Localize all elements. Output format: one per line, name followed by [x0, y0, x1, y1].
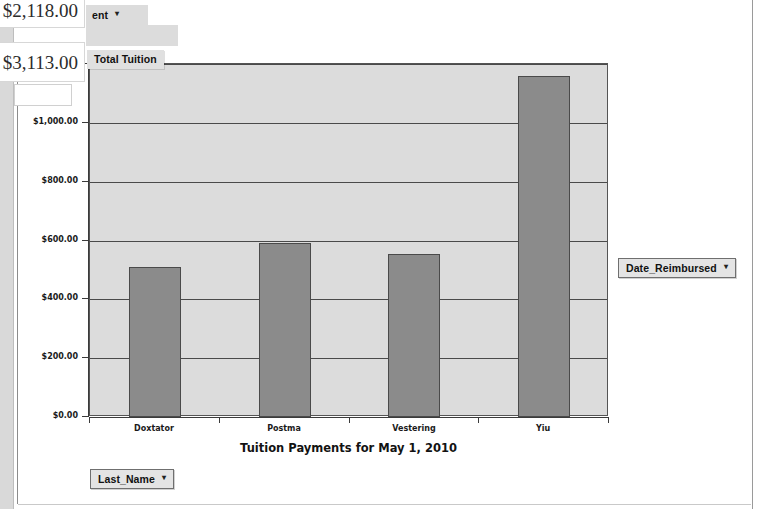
y-axis-tick — [82, 240, 89, 241]
x-axis-label-vestering: Vestering — [349, 424, 479, 433]
x-axis-tick — [478, 417, 479, 423]
x-axis-label-yiu: Yiu — [478, 424, 608, 433]
x-axis-label-doxtator: Doxtator — [89, 424, 219, 433]
pivot-chart: $0.00$200.00$400.00$600.00$800.00$1,000.… — [0, 0, 761, 509]
y-axis-tick — [82, 181, 89, 182]
y-axis-tick — [82, 357, 89, 358]
chevron-down-icon: ▾ — [724, 263, 728, 271]
field-button-last-name-label: Last_Name — [98, 474, 155, 485]
x-axis-tick — [608, 417, 609, 423]
datasheet-cell-total-2[interactable]: $3,113.00 — [0, 42, 85, 82]
bar-postma[interactable] — [259, 243, 311, 417]
chevron-down-icon: ▾ — [115, 10, 119, 18]
chart-title: Tuition Payments for May 1, 2010 — [89, 441, 608, 455]
y-axis-label: $1,000.00 — [0, 117, 78, 126]
x-axis-tick — [349, 417, 350, 423]
bar-doxtator[interactable] — [129, 267, 181, 417]
payment-field-body — [86, 25, 178, 46]
datasheet-cell-total-1[interactable]: $2,118.00 — [0, 0, 85, 28]
field-button-total-tuition-label: Total Tuition — [94, 54, 157, 65]
x-axis-tick — [89, 417, 90, 423]
field-button-date-reimbursed[interactable]: Date_Reimbursed ▾ — [618, 258, 736, 278]
x-axis-tick — [219, 417, 220, 423]
field-button-date-reimbursed-label: Date_Reimbursed — [626, 263, 717, 274]
report-screen: $0.00$200.00$400.00$600.00$800.00$1,000.… — [0, 0, 761, 509]
bar-yiu[interactable] — [518, 76, 570, 417]
y-axis-label: $0.00 — [0, 411, 78, 420]
plot-area — [89, 63, 608, 416]
x-axis-label-postma: Postma — [219, 424, 349, 433]
datasheet-cell-stub[interactable] — [14, 84, 72, 106]
gridline-120000 — [90, 64, 607, 65]
field-button-payment-label: ent — [92, 10, 108, 21]
bar-vestering[interactable] — [388, 254, 440, 417]
field-button-payment[interactable]: ent ▾ — [86, 5, 148, 25]
y-axis-label: $400.00 — [0, 293, 78, 302]
y-axis-label: $200.00 — [0, 352, 78, 361]
chevron-down-icon: ▾ — [162, 474, 166, 482]
field-button-total-tuition[interactable]: Total Tuition — [87, 50, 164, 69]
y-axis-tick — [82, 122, 89, 123]
y-axis-tick — [82, 298, 89, 299]
y-axis-label: $800.00 — [0, 176, 78, 185]
y-axis-tick — [82, 416, 89, 417]
field-button-last-name[interactable]: Last_Name ▾ — [90, 469, 174, 489]
y-axis-label: $600.00 — [0, 235, 78, 244]
